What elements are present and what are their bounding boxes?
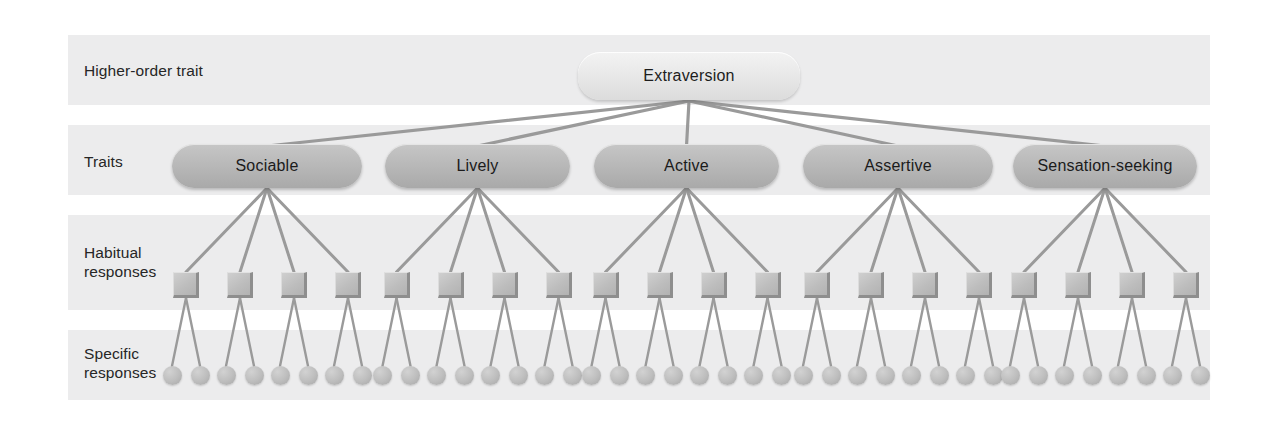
node-trait-label: Lively: [456, 157, 498, 175]
node-specific-response[interactable]: [245, 366, 264, 385]
node-extraversion-label: Extraversion: [643, 67, 734, 85]
node-habitual-response[interactable]: [1119, 272, 1145, 298]
node-habitual-response[interactable]: [647, 272, 673, 298]
node-trait-label: Sociable: [236, 157, 299, 175]
node-specific-response[interactable]: [191, 366, 210, 385]
node-habitual-response[interactable]: [755, 272, 781, 298]
node-specific-response[interactable]: [902, 366, 921, 385]
node-specific-response[interactable]: [1109, 366, 1128, 385]
node-specific-response[interactable]: [822, 366, 841, 385]
node-specific-response[interactable]: [427, 366, 446, 385]
node-specific-response[interactable]: [794, 366, 813, 385]
node-habitual-response[interactable]: [173, 272, 199, 298]
node-habitual-response[interactable]: [966, 272, 992, 298]
node-habitual-response[interactable]: [912, 272, 938, 298]
row-label-traits: Traits: [84, 152, 123, 171]
node-habitual-response[interactable]: [701, 272, 727, 298]
node-habitual-response[interactable]: [1173, 272, 1199, 298]
node-specific-response[interactable]: [509, 366, 528, 385]
node-habitual-response[interactable]: [384, 272, 410, 298]
node-habitual-response[interactable]: [804, 272, 830, 298]
node-specific-response[interactable]: [373, 366, 392, 385]
node-specific-response[interactable]: [1001, 366, 1020, 385]
node-specific-response[interactable]: [772, 366, 791, 385]
node-specific-response[interactable]: [744, 366, 763, 385]
node-extraversion[interactable]: Extraversion: [578, 52, 800, 100]
node-specific-response[interactable]: [1137, 366, 1156, 385]
node-trait-label: Sensation-seeking: [1037, 157, 1172, 175]
node-specific-response[interactable]: [1163, 366, 1182, 385]
node-specific-response[interactable]: [1029, 366, 1048, 385]
node-specific-response[interactable]: [455, 366, 474, 385]
row-label-specific-responses: Specific responses: [84, 344, 156, 382]
node-specific-response[interactable]: [271, 366, 290, 385]
node-specific-response[interactable]: [1191, 366, 1210, 385]
node-trait[interactable]: Active: [594, 144, 779, 188]
node-specific-response[interactable]: [610, 366, 629, 385]
node-specific-response[interactable]: [325, 366, 344, 385]
node-specific-response[interactable]: [718, 366, 737, 385]
node-habitual-response[interactable]: [438, 272, 464, 298]
node-specific-response[interactable]: [582, 366, 601, 385]
node-trait-label: Active: [664, 157, 709, 175]
node-specific-response[interactable]: [690, 366, 709, 385]
node-habitual-response[interactable]: [546, 272, 572, 298]
node-specific-response[interactable]: [481, 366, 500, 385]
node-specific-response[interactable]: [1083, 366, 1102, 385]
node-specific-response[interactable]: [636, 366, 655, 385]
node-specific-response[interactable]: [535, 366, 554, 385]
node-trait[interactable]: Assertive: [803, 144, 993, 188]
node-specific-response[interactable]: [930, 366, 949, 385]
node-specific-response[interactable]: [956, 366, 975, 385]
node-habitual-response[interactable]: [858, 272, 884, 298]
node-habitual-response[interactable]: [281, 272, 307, 298]
node-trait-label: Assertive: [864, 157, 932, 175]
node-habitual-response[interactable]: [1065, 272, 1091, 298]
node-trait[interactable]: Sociable: [172, 144, 362, 188]
node-specific-response[interactable]: [163, 366, 182, 385]
node-specific-response[interactable]: [664, 366, 683, 385]
node-specific-response[interactable]: [876, 366, 895, 385]
diagram-canvas: Higher-order trait Traits Habitual respo…: [0, 0, 1270, 428]
node-habitual-response[interactable]: [335, 272, 361, 298]
node-trait[interactable]: Sensation-seeking: [1013, 144, 1197, 188]
node-habitual-response[interactable]: [492, 272, 518, 298]
node-specific-response[interactable]: [353, 366, 372, 385]
row-label-habitual-responses: Habitual responses: [84, 243, 156, 281]
node-habitual-response[interactable]: [227, 272, 253, 298]
node-specific-response[interactable]: [848, 366, 867, 385]
node-specific-response[interactable]: [1055, 366, 1074, 385]
row-band-specific: [68, 330, 1210, 400]
node-habitual-response[interactable]: [593, 272, 619, 298]
node-trait[interactable]: Lively: [385, 144, 570, 188]
node-specific-response[interactable]: [563, 366, 582, 385]
node-specific-response[interactable]: [299, 366, 318, 385]
node-specific-response[interactable]: [217, 366, 236, 385]
node-specific-response[interactable]: [401, 366, 420, 385]
node-specific-response[interactable]: [984, 366, 1003, 385]
node-habitual-response[interactable]: [1011, 272, 1037, 298]
row-label-higher-order: Higher-order trait: [84, 61, 203, 80]
